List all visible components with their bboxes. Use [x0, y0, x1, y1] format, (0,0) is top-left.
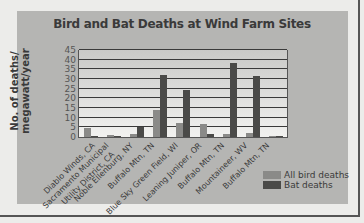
y-tick-label: 15: [58, 104, 76, 113]
bar-bat-deaths: [114, 136, 121, 137]
bar-bird-deaths: [130, 134, 137, 137]
bar-bat-deaths: [207, 134, 214, 137]
bar-bird-deaths: [200, 124, 207, 137]
legend-item-bat: Bat deaths: [263, 180, 349, 190]
bar-bird-deaths: [153, 110, 160, 137]
y-tick-label: 0: [58, 133, 76, 142]
y-tick-label: 20: [58, 94, 76, 103]
legend: All bird deaths Bat deaths: [263, 170, 349, 190]
bar-bird-deaths: [223, 134, 230, 137]
gridline: [79, 49, 287, 50]
bar-bat-deaths: [91, 136, 98, 137]
chart-title: Bird and Bat Deaths at Wind Farm Sites: [0, 17, 364, 31]
bar-bird-deaths: [84, 128, 91, 137]
bird-swatch: [263, 171, 281, 179]
gridline: [79, 59, 287, 60]
y-tick-label: 45: [58, 46, 76, 55]
bar-bat-deaths: [253, 76, 260, 137]
bar-bird-deaths: [269, 136, 276, 137]
y-tick-label: 5: [58, 123, 76, 132]
bar-bat-deaths: [137, 127, 144, 137]
bar-bird-deaths: [176, 123, 183, 138]
y-tick-label: 30: [58, 75, 76, 84]
y-tick-label: 35: [58, 65, 76, 74]
y-tick-label: 40: [58, 56, 76, 65]
y-tick-label: 10: [58, 114, 76, 123]
bar-bird-deaths: [107, 135, 114, 137]
bar-bat-deaths: [183, 90, 190, 137]
gridline: [79, 68, 287, 69]
bar-bird-deaths: [246, 133, 253, 137]
plot-area: [78, 50, 288, 138]
bat-swatch: [263, 181, 281, 189]
y-axis-label: No. of deaths/ megawatt/year: [9, 47, 31, 135]
bar-bat-deaths: [160, 75, 167, 137]
legend-item-bird: All bird deaths: [263, 170, 349, 180]
bar-bat-deaths: [230, 63, 237, 137]
bar-bat-deaths: [276, 136, 283, 137]
y-tick-label: 25: [58, 85, 76, 94]
